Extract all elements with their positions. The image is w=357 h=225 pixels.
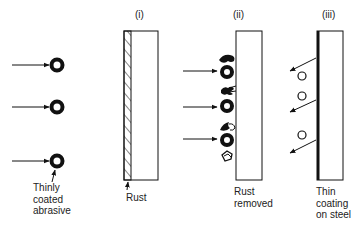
abrasive-label: Thinly coated abrasive <box>33 182 71 217</box>
rust-debris-icon <box>224 154 231 157</box>
abrasive-label-line: abrasive <box>33 205 71 217</box>
abrasive-particle-icon <box>52 156 63 167</box>
rust-layer <box>124 31 131 180</box>
caption-line: removed <box>234 198 273 210</box>
abrasive-particle-icon <box>52 102 63 113</box>
abrasive-label-line: coated <box>33 194 71 206</box>
abrasive-particle-icon <box>298 131 306 139</box>
abrasive-particle-icon <box>222 67 232 77</box>
caption-line: on steel <box>316 209 351 221</box>
abrasive-particle-icon <box>222 101 232 111</box>
abrasive-label-line: Thinly <box>33 182 71 194</box>
caption-line: coating <box>316 198 351 210</box>
rust-debris-icon <box>221 87 234 95</box>
rebound-arrow-icon <box>290 58 316 71</box>
abrasive-particle-icon <box>222 135 232 145</box>
pointer-arrow-icon <box>52 170 55 182</box>
caption-line: Rust <box>126 192 147 204</box>
thin-coating-layer <box>317 31 320 180</box>
pointer-arrow-icon <box>127 182 128 190</box>
panel-ii-label: (ii) <box>233 9 244 20</box>
panel-iii-label: (iii) <box>322 9 335 20</box>
panel-ii-steel <box>183 31 262 180</box>
caption-line: Thin <box>316 186 351 198</box>
panel-i-label: (i) <box>135 9 144 20</box>
rebound-arrow-icon <box>290 100 316 112</box>
panel-iii-caption: Thin coating on steel <box>316 186 351 221</box>
rust-debris-icon <box>220 122 230 131</box>
abrasive-particle-icon <box>298 92 306 100</box>
rust-debris-icon <box>219 55 235 63</box>
rebound-arrow-icon <box>290 140 316 153</box>
caption-line: Rust <box>234 186 273 198</box>
abrasive-particle-icon <box>52 60 63 71</box>
incoming-abrasive-group <box>12 60 63 183</box>
abrasive-particle-icon <box>298 72 306 80</box>
rust-debris-icon <box>229 124 235 130</box>
panel-i-steel <box>124 31 158 190</box>
panel-iii-steel <box>290 31 343 180</box>
panel-ii-caption: Rust removed <box>234 186 273 209</box>
panel-i-caption: Rust <box>126 192 147 204</box>
